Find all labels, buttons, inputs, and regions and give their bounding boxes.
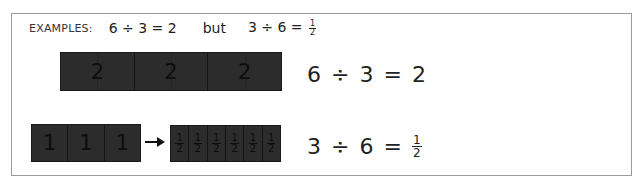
bar-segment: 2 [61, 53, 134, 90]
bar-segment: 12 [171, 126, 188, 161]
bar-segment: 12 [225, 126, 243, 161]
bar-three-ones: 1 1 1 [31, 124, 141, 162]
bar-segment: 1 [104, 125, 140, 161]
example-2-equation: 3 ÷ 6 = 1 2 [248, 19, 316, 37]
bar-segment: 12 [188, 126, 206, 161]
bar-segment: 1 [32, 125, 67, 161]
bar-segment: 2 [207, 53, 281, 90]
example-2-fraction: 1 2 [309, 20, 316, 37]
bar-segment: 1 [67, 125, 103, 161]
bar-segment: 12 [262, 126, 280, 161]
bar-segment: 12 [243, 126, 261, 161]
right-arrow-icon [144, 135, 166, 149]
connector-text: but [203, 20, 226, 36]
example-2-prefix: 3 ÷ 6 = [248, 19, 303, 35]
bar-segment: 12 [207, 126, 225, 161]
result-fraction: 1 2 [412, 134, 422, 159]
equation-6-div-3: 6 ÷ 3 = 2 [307, 62, 426, 87]
examples-header: EXAMPLES: 6 ÷ 3 = 2 but 3 ÷ 6 = 1 2 [29, 17, 316, 39]
examples-label: EXAMPLES: [29, 22, 93, 35]
bar-three-groups-of-two: 2 2 2 [60, 52, 282, 91]
bar-six-halves: 12 12 12 12 12 12 [170, 125, 281, 162]
equation-3-div-6: 3 ÷ 6 = 1 2 [307, 134, 422, 159]
bar-segment: 2 [134, 53, 208, 90]
example-1-equation: 6 ÷ 3 = 2 [109, 20, 177, 36]
